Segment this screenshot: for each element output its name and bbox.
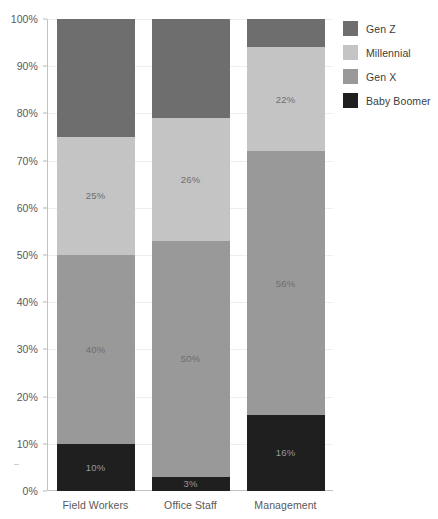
legend-swatch-icon [343, 93, 358, 108]
bar-segment[interactable]: 26% [152, 118, 230, 241]
legend-label: Millennial [366, 47, 411, 59]
y-axis-tick-label: 10% [17, 438, 38, 450]
stacked-bar-chart: 0%10%20%30%40%50%60%70%80%90%100% 10%40%… [0, 0, 438, 519]
legend-item[interactable]: Gen X [343, 65, 438, 88]
legend-swatch-icon [343, 21, 358, 36]
x-axis-tick-label: Office Staff [152, 493, 230, 511]
axis-artifact-mark [14, 464, 19, 465]
legend-swatch-icon [343, 45, 358, 60]
legend-swatch-icon [343, 69, 358, 84]
bar-segment[interactable]: 40% [57, 255, 135, 444]
bar-column[interactable]: 16%56%22%6% [247, 19, 325, 491]
bar-segment-label: 40% [86, 345, 106, 355]
bar-segment[interactable]: 56% [247, 151, 325, 415]
y-axis-tick-label: 30% [17, 343, 38, 355]
bar-segment[interactable]: 50% [152, 241, 230, 477]
legend-label: Gen Z [366, 23, 396, 35]
y-axis-tick-label: 40% [17, 296, 38, 308]
legend-label: Gen X [366, 71, 396, 83]
y-axis-tick-label: 90% [17, 60, 38, 72]
legend-item[interactable]: Gen Z [343, 17, 438, 40]
bar-segment[interactable]: 3% [152, 477, 230, 491]
y-axis-tick-label: 20% [17, 391, 38, 403]
bar-segment[interactable]: 16% [247, 415, 325, 491]
legend-item[interactable]: Millennial [343, 41, 438, 64]
bars-layer: 10%40%25%25%3%50%26%21%16%56%22%6% [48, 19, 333, 491]
y-axis-tick-label: 0% [23, 485, 38, 497]
y-axis-tick-label: 100% [11, 13, 38, 25]
bar-segment-label: 21% [181, 64, 201, 74]
bar-segment-label: 22% [276, 95, 296, 105]
bar-segment[interactable]: 10% [57, 444, 135, 491]
x-axis: Field WorkersOffice StaffManagement [48, 493, 333, 517]
bar-segment-label: 56% [276, 279, 296, 289]
y-axis-tick-label: 70% [17, 155, 38, 167]
bar-segment[interactable]: 6% [247, 19, 325, 47]
y-axis: 0%10%20%30%40%50%60%70%80%90%100% [0, 0, 44, 519]
bar-segment[interactable]: 21% [152, 19, 230, 118]
bar-segment[interactable]: 25% [57, 19, 135, 137]
legend-label: Baby Boomer [366, 95, 431, 107]
x-axis-tick-label: Management [247, 493, 325, 511]
bar-segment-label: 3% [183, 479, 197, 489]
bar-segment[interactable]: 25% [57, 137, 135, 255]
y-axis-tick-label: 80% [17, 107, 38, 119]
y-axis-tick-label: 50% [17, 249, 38, 261]
bar-segment-label: 50% [181, 354, 201, 364]
bar-column[interactable]: 3%50%26%21% [152, 19, 230, 491]
plot-area: 10%40%25%25%3%50%26%21%16%56%22%6% [48, 19, 333, 491]
bar-segment-label: 26% [181, 175, 201, 185]
bar-segment-label: 25% [86, 191, 106, 201]
bar-column[interactable]: 10%40%25%25% [57, 19, 135, 491]
y-axis-tick-label: 60% [17, 202, 38, 214]
bar-segment-label: 16% [276, 448, 296, 458]
bar-segment[interactable]: 22% [247, 47, 325, 151]
x-axis-tick-label: Field Workers [57, 493, 135, 511]
chart-legend: Gen ZMillennialGen XBaby Boomer [343, 17, 438, 113]
bar-segment-label: 10% [86, 463, 106, 473]
bar-segment-label: 25% [86, 73, 106, 83]
bar-segment-label: 6% [278, 28, 292, 38]
legend-item[interactable]: Baby Boomer [343, 89, 438, 112]
